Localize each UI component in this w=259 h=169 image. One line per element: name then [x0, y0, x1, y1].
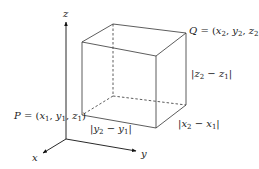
x-axis — [43, 139, 66, 153]
point-p-label: P = (x1, y1, z1) — [13, 110, 86, 123]
hidden-edge-bottom-left — [82, 96, 113, 115]
y-axis-label: y — [140, 148, 147, 159]
point-q-label: Q = (x2, y2, z2) — [189, 25, 259, 38]
diagram-canvas: z y x Q = (x2, y2, z2) P = (x1, y1, z1) … — [0, 0, 259, 169]
z-axis-label: z — [62, 8, 69, 19]
y-axis — [66, 139, 136, 151]
x-axis-label: x — [32, 152, 38, 163]
depth-dimension-label: |y2 − y1| — [90, 123, 132, 136]
width-dimension-label: |x2 − x1| — [178, 118, 220, 131]
top-face — [82, 24, 186, 56]
hidden-edge-bottom-back — [113, 96, 186, 105]
rectangular-box — [82, 24, 186, 128]
height-dimension-label: |z2 − z1| — [191, 68, 232, 81]
coordinate-box-diagram: z y x Q = (x2, y2, z2) P = (x1, y1, z1) … — [0, 0, 259, 169]
